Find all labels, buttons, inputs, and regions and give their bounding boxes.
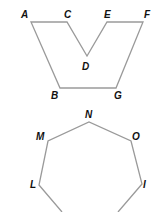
vertex-label-F: F (144, 9, 151, 20)
vertex-label-G: G (114, 90, 122, 101)
vertex-label-C: C (64, 9, 72, 20)
concave-polygon-ACDEFGB (31, 22, 143, 88)
vertex-label-E: E (104, 9, 111, 20)
vertex-label-N: N (85, 109, 93, 120)
vertex-label-M: M (36, 131, 45, 142)
vertex-label-A: A (20, 9, 28, 20)
vertex-label-L: L (30, 179, 36, 190)
vertex-label-D: D (82, 61, 89, 72)
vertex-label-B: B (51, 90, 58, 101)
partial-polygon-LMNOI (39, 122, 142, 212)
geometry-diagram: A C D E F G B L M N O I (0, 0, 159, 212)
vertex-label-O: O (132, 131, 140, 142)
vertex-label-I: I (143, 179, 146, 190)
